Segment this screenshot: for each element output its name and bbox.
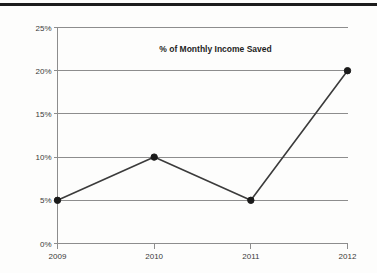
gridlines <box>58 28 348 244</box>
data-series-markers <box>54 68 350 204</box>
x-axis-tick-label: 2012 <box>339 252 357 261</box>
line-chart: 0%5%10%15%20%25% 2009201020112012 % of M… <box>0 0 377 273</box>
x-axis-tick-label: 2010 <box>145 252 163 261</box>
y-axis-ticks <box>54 28 58 244</box>
y-axis-tick-label: 0% <box>20 239 52 248</box>
y-axis-tick-label: 15% <box>20 109 52 118</box>
x-axis-ticks <box>58 244 348 249</box>
data-series-line <box>58 71 348 201</box>
y-axis-tick-label: 5% <box>20 196 52 205</box>
y-axis-tick-label: 20% <box>20 66 52 75</box>
chart-title: % of Monthly Income Saved <box>159 44 271 54</box>
y-axis-tick-label: 25% <box>20 23 52 32</box>
x-axis-tick-label: 2009 <box>49 252 67 261</box>
chart-plot-svg <box>0 0 377 273</box>
x-axis-tick-label: 2011 <box>242 252 259 261</box>
y-axis-tick-label: 10% <box>20 153 52 162</box>
